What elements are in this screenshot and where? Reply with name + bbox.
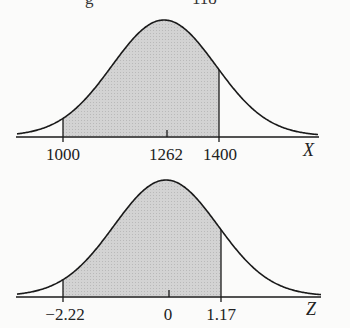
normal-distribution-figure: g 118 1000 1262 1400 X −2.22 0 1.17 Z: [0, 0, 350, 328]
tick-label-1400: 1400: [203, 146, 237, 163]
z-axis-label: Z: [306, 300, 316, 318]
tick-label-neg-2-22: −2.22: [45, 306, 84, 323]
shaded-region: [63, 20, 219, 136]
tick-label-mean-x: 1262: [149, 146, 183, 163]
x-distribution-plot: [16, 20, 319, 142]
x-axis-label: X: [303, 141, 314, 159]
curves-svg: [0, 0, 350, 328]
shaded-region: [63, 180, 221, 296]
tick-label-1000: 1000: [46, 146, 80, 163]
tick-label-1-17: 1.17: [206, 306, 236, 323]
z-distribution-plot: [16, 180, 321, 302]
tick-label-zero: 0: [164, 306, 173, 323]
